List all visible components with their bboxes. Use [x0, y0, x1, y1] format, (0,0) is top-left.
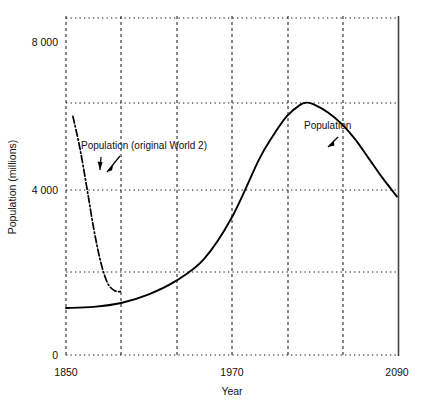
x-tick-1850: 1850: [54, 366, 78, 378]
x-tick-2090: 2090: [385, 366, 409, 378]
x-axis-ticks: 1850 1970 2090: [54, 366, 409, 378]
y-tick-4000: 4 000: [32, 184, 58, 196]
y-axis-ticks: 8 000 4 000 0: [32, 36, 58, 361]
chart-figure: Population (original World 2) Population…: [0, 0, 421, 402]
annotation-world2-label: Population (original World 2): [81, 140, 207, 151]
population-curve: [66, 103, 397, 308]
annotation-population: Population: [304, 120, 351, 147]
annotation-world2: Population (original World 2): [81, 140, 207, 172]
population-chart-svg: Population (original World 2) Population…: [0, 0, 421, 402]
y-tick-0: 0: [52, 349, 58, 361]
annotation-population-label: Population: [304, 120, 351, 131]
x-axis-title: Year: [221, 385, 243, 397]
x-tick-1970: 1970: [220, 366, 244, 378]
y-axis-title: Population (millions): [6, 140, 18, 235]
y-tick-8000: 8 000: [32, 36, 58, 48]
